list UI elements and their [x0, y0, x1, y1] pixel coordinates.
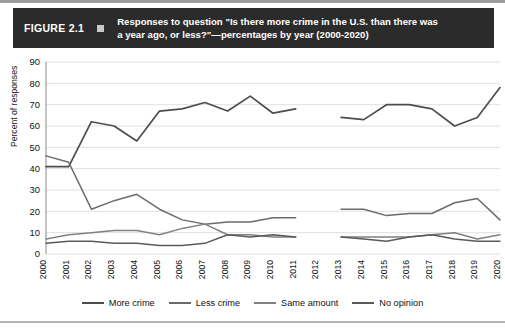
x-axis-tick-label: 2004: [129, 260, 139, 279]
x-axis-tick-label: 2009: [242, 260, 252, 279]
figure-title: Responses to question "Is there more cri…: [117, 15, 448, 42]
y-axis-tick-label: 0: [35, 248, 40, 259]
legend-label: Less crime: [196, 298, 240, 308]
top-divider: [0, 0, 505, 3]
x-axis-tick-label: 2018: [447, 260, 457, 279]
x-axis-tick-label: 2006: [174, 260, 184, 279]
legend-swatch-icon: [254, 302, 276, 304]
x-axis-tick-label: 2003: [106, 260, 116, 279]
legend-item-less-crime[interactable]: Less crime: [169, 298, 240, 308]
legend-label: Same amount: [281, 298, 338, 308]
figure-title-bar: FIGURE 2.1 Responses to question "Is the…: [13, 8, 494, 48]
x-axis-tick-label: 2017: [424, 260, 434, 279]
legend-item-more-crime[interactable]: More crime: [82, 298, 155, 308]
legend-item-same-amount[interactable]: Same amount: [254, 298, 338, 308]
legend-label: More crime: [109, 298, 155, 308]
legend-swatch-icon: [352, 302, 374, 304]
chart-legend: More crimeLess crimeSame amountNo opinio…: [0, 298, 505, 308]
series-line-less-crime: [341, 199, 500, 220]
y-axis-tick-label: 60: [30, 120, 40, 131]
x-axis-tick-label: 2012: [310, 260, 320, 279]
legend-item-no-opinion[interactable]: No opinion: [352, 298, 423, 308]
chart-area: Percent of responses 0102030405060708090…: [0, 52, 505, 330]
x-axis-tick-label: 2005: [152, 260, 162, 279]
y-axis-tick-label: 10: [30, 227, 40, 238]
x-axis-tick-label: 2008: [220, 260, 230, 279]
figure-title-line-1: Responses to question "Is there more cri…: [117, 16, 438, 27]
bullet-square-icon: [97, 25, 104, 32]
x-axis-tick-label: 2001: [61, 260, 71, 279]
x-axis-tick-label: 2016: [401, 260, 411, 279]
x-axis-tick-label: 2014: [356, 260, 366, 279]
y-axis-tick-label: 20: [30, 206, 40, 217]
legend-swatch-icon: [82, 302, 104, 304]
x-axis-tick-label: 2002: [83, 260, 93, 279]
x-axis-tick-label: 2010: [265, 260, 275, 279]
y-axis-tick-label: 80: [30, 78, 40, 89]
figure-number: FIGURE 2.1: [13, 22, 84, 34]
x-axis-tick-label: 2007: [197, 260, 207, 279]
series-line-more-crime: [341, 88, 500, 126]
y-axis-tick-label: 30: [30, 184, 40, 195]
x-axis-tick-label: 2015: [379, 260, 389, 279]
legend-label: No opinion: [379, 298, 423, 308]
series-line-more-crime: [46, 96, 296, 166]
x-axis-tick-label: 2019: [469, 260, 479, 279]
x-axis-tick-label: 2020: [492, 260, 502, 279]
y-axis-tick-label: 40: [30, 163, 40, 174]
x-axis-tick-label: 2011: [288, 260, 298, 279]
y-axis-tick-label: 90: [30, 56, 40, 67]
figure-title-line-2: a year ago, or less?"—percentages by yea…: [117, 29, 368, 40]
series-line-no-opinion: [46, 235, 296, 246]
line-chart-svg: 0102030405060708090200020012002200320042…: [0, 52, 505, 330]
bottom-divider: [0, 321, 505, 323]
y-axis-tick-label: 70: [30, 99, 40, 110]
x-axis-tick-label: 2000: [38, 260, 48, 279]
legend-swatch-icon: [169, 302, 191, 304]
x-axis-tick-label: 2013: [333, 260, 343, 279]
y-axis-tick-label: 50: [30, 142, 40, 153]
